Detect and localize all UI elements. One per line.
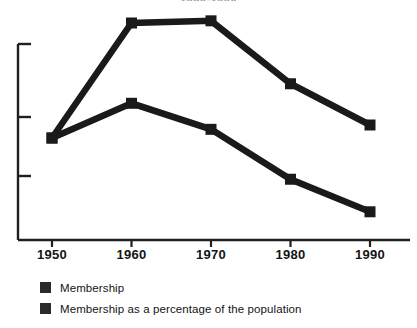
chart-axes bbox=[18, 44, 410, 247]
data-point-marker bbox=[285, 78, 296, 89]
chart-legend: MembershipMembership as a percentage of … bbox=[40, 277, 400, 319]
data-point-marker bbox=[285, 174, 296, 185]
series-line-membership-percentage bbox=[52, 103, 370, 211]
x-axis-label-1980: 1980 bbox=[275, 247, 305, 262]
data-point-marker bbox=[47, 133, 58, 144]
legend-item-membership-percentage: Membership as a percentage of the popula… bbox=[40, 298, 400, 319]
legend-swatch-icon bbox=[40, 303, 51, 314]
x-axis-tick-labels: 19501960197019801990 bbox=[0, 247, 417, 267]
line-chart: 1950-1990 19501960197019801990 Membershi… bbox=[0, 0, 417, 328]
x-axis-label-1960: 1960 bbox=[116, 247, 146, 262]
data-point-marker bbox=[365, 206, 376, 217]
data-point-marker bbox=[206, 124, 217, 135]
legend-label: Membership bbox=[60, 282, 124, 294]
data-point-marker bbox=[126, 18, 137, 29]
chart-plot-area bbox=[0, 0, 417, 268]
data-point-marker bbox=[126, 98, 137, 109]
data-point-marker bbox=[206, 15, 217, 26]
x-axis-label-1950: 1950 bbox=[37, 247, 67, 262]
data-point-marker bbox=[365, 119, 376, 130]
legend-label: Membership as a percentage of the popula… bbox=[60, 303, 302, 315]
legend-swatch-icon bbox=[40, 282, 51, 293]
chart-series bbox=[47, 15, 376, 217]
legend-item-membership: Membership bbox=[40, 277, 400, 298]
x-axis-label-1970: 1970 bbox=[196, 247, 226, 262]
x-axis-label-1990: 1990 bbox=[355, 247, 385, 262]
